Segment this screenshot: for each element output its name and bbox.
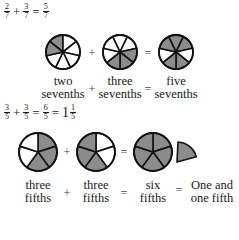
plus-sign: + (89, 82, 96, 97)
fraction-three-fifths: 3 5 (4, 104, 10, 121)
plus-sign: + (64, 186, 71, 201)
equation-fifths: 3 5 + 3 5 = 6 5 =1 1 5 (4, 104, 76, 121)
label-three-fifths: three fifths (83, 179, 109, 205)
label-one-and-one-fifth: One and one fifth (191, 179, 234, 205)
extra-fifth-piece (177, 142, 196, 162)
label-three-sevenths: three sevenths (98, 75, 141, 101)
equals-sign: = (52, 105, 59, 120)
equals-sign: = (121, 186, 128, 201)
equals-sign: = (32, 105, 39, 120)
plus-sign: + (89, 46, 96, 61)
label-five-sevenths: five sevenths (154, 75, 197, 101)
whole-number: 1 (62, 105, 69, 120)
fraction-six-fifths: 6 5 (43, 104, 49, 121)
fraction-three-fifths: 3 5 (23, 104, 29, 121)
fraction-one-fifth: 1 5 (70, 104, 76, 121)
label-three-fifths: three fifths (25, 179, 51, 205)
equals-sign: = (145, 46, 152, 61)
plus-sign: + (13, 105, 20, 120)
label-two-sevenths: two sevenths (41, 75, 84, 101)
plus-sign: + (64, 145, 71, 160)
equals-sign: = (121, 145, 128, 160)
equals-sign: = (176, 183, 183, 198)
equals-sign: = (145, 82, 152, 97)
label-six-fifths: six fifths (140, 179, 166, 205)
